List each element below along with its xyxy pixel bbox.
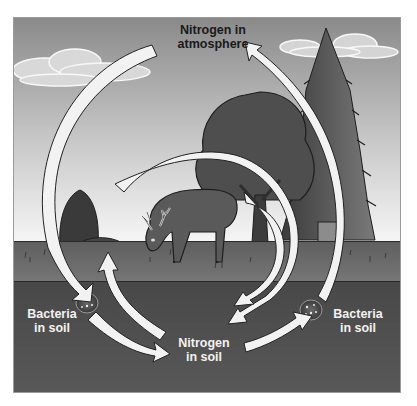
label-line: in soil: [20, 321, 84, 335]
label-line: in soil: [166, 350, 242, 364]
label-line: in soil: [326, 321, 390, 335]
label-nitrogen-in-soil: Nitrogen in soil: [166, 336, 242, 364]
label-line: atmosphere: [158, 37, 268, 51]
label-nitrogen-in-atmosphere: Nitrogen in atmosphere: [158, 23, 268, 51]
label-bacteria-in-soil-right: Bacteria in soil: [326, 307, 390, 335]
label-bacteria-in-soil-left: Bacteria in soil: [20, 307, 84, 335]
label-line: Bacteria: [20, 307, 84, 321]
label-line: Bacteria: [326, 307, 390, 321]
label-line: Nitrogen in: [158, 23, 268, 37]
label-line: Nitrogen: [166, 336, 242, 350]
